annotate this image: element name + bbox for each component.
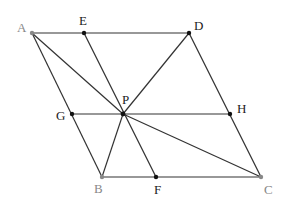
- label-A: A: [17, 20, 27, 35]
- label-D: D: [194, 18, 203, 33]
- label-F: F: [154, 182, 161, 197]
- point-F: [154, 175, 158, 179]
- segment-PB: [102, 114, 123, 177]
- point-G: [70, 112, 74, 116]
- segment-PD: [123, 33, 189, 114]
- point-C: [259, 175, 263, 179]
- side-CD: [189, 33, 261, 177]
- point-D: [187, 31, 191, 35]
- segment-PA: [32, 33, 123, 114]
- label-P: P: [122, 92, 129, 107]
- label-G: G: [56, 108, 65, 123]
- geometry-diagram: A E D G P H B F C: [0, 0, 286, 210]
- side-AB: [32, 33, 102, 177]
- point-P: [121, 112, 126, 117]
- segment-PC: [123, 114, 261, 177]
- segment-EF: [84, 33, 156, 177]
- label-E: E: [79, 13, 87, 28]
- point-B: [100, 175, 104, 179]
- point-A: [30, 31, 34, 35]
- label-H: H: [237, 101, 246, 116]
- point-E: [82, 31, 86, 35]
- label-B: B: [94, 181, 103, 196]
- label-C: C: [264, 182, 273, 197]
- point-H: [228, 112, 232, 116]
